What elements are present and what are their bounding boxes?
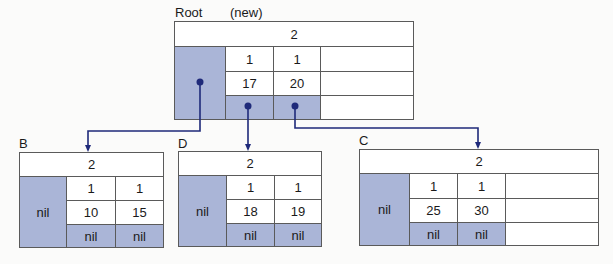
root-row3-empty (320, 95, 413, 119)
node-c-row1-empty (505, 174, 598, 198)
node-b-row3-cell: nil (115, 224, 163, 247)
root-pointer-2 (273, 95, 320, 119)
root-row1-empty (320, 47, 413, 71)
node-d-label: D (178, 137, 187, 151)
arrowhead-to-c (475, 142, 481, 149)
node-d-row2-cell: 18 (226, 199, 274, 223)
node-d-count: 2 (179, 152, 321, 176)
node-d: 2 nil 1 1 18 19 nil nil (178, 151, 322, 247)
root-row2-empty (320, 71, 413, 95)
node-b-row1-cell: 1 (115, 177, 163, 200)
node-b-row2-cell: 10 (66, 200, 115, 224)
node-b-label: B (19, 137, 28, 151)
root-left-pointer (175, 47, 225, 119)
node-c-left-pointer: nil (360, 174, 409, 245)
node-c-row2-cell: 25 (409, 198, 457, 222)
root-row2-cell: 20 (273, 71, 320, 95)
node-d-row3-cell: nil (226, 223, 274, 246)
root-row2-cell: 17 (225, 71, 273, 95)
node-c: 2 nil 1 1 25 30 nil nil (359, 149, 599, 246)
node-c-row1-cell: 1 (457, 174, 505, 198)
root-pointer-1 (225, 95, 273, 119)
node-c-row3-cell: nil (457, 222, 505, 245)
root-row1-cell: 1 (273, 47, 320, 71)
node-c-row3-cell: nil (409, 222, 457, 245)
root-label: Root (175, 6, 202, 20)
node-c-row1-cell: 1 (409, 174, 457, 198)
root-new-note: (new) (230, 6, 263, 20)
node-b-row2-cell: 15 (115, 200, 163, 224)
node-c-label: C (359, 134, 368, 148)
node-b-count: 2 (20, 153, 163, 177)
node-c-row2-cell: 30 (457, 198, 505, 222)
node-d-left-pointer: nil (179, 176, 226, 246)
node-d-row3-cell: nil (274, 223, 321, 246)
node-c-count: 2 (360, 150, 598, 174)
node-c-row3-empty (505, 222, 598, 245)
arrowhead-to-d (245, 144, 251, 151)
node-c-row2-empty (505, 198, 598, 222)
root-count: 2 (175, 22, 413, 47)
arrowhead-to-b (85, 145, 91, 152)
node-d-row2-cell: 19 (274, 199, 321, 223)
node-d-row1-cell: 1 (226, 176, 274, 199)
node-d-row1-cell: 1 (274, 176, 321, 199)
node-b-row3-cell: nil (66, 224, 115, 247)
node-b: 2 nil 1 1 10 15 nil nil (19, 152, 164, 248)
node-b-row1-cell: 1 (66, 177, 115, 200)
node-b-left-pointer: nil (20, 177, 66, 247)
root-node: 2 1 1 17 20 (174, 21, 414, 120)
root-row1-cell: 1 (225, 47, 273, 71)
